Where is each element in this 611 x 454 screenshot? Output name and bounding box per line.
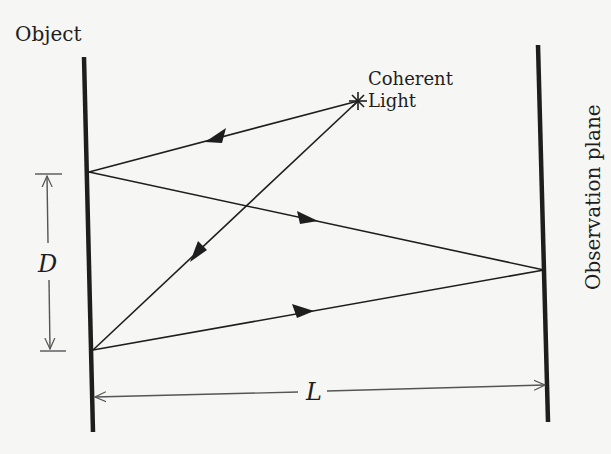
distance-label: L <box>306 380 322 404</box>
object-plane-line <box>84 57 93 432</box>
slit-separation-label: D <box>38 252 57 276</box>
ray-lower-to-screen <box>93 270 544 350</box>
coherent-light-line2: Light <box>368 90 453 112</box>
coherent-light-label: Coherent Light <box>368 68 453 112</box>
object-label: Object <box>15 24 81 44</box>
observation-plane-line <box>538 45 548 422</box>
observation-plane-label: Observation plane <box>583 104 603 290</box>
arrowhead-icon <box>292 304 314 318</box>
ray-source-to-lower <box>93 101 358 350</box>
light-rays <box>89 101 544 350</box>
coherent-light-line1: Coherent <box>368 68 453 90</box>
arrowhead-icon <box>190 241 207 262</box>
arrowhead-icon <box>297 211 318 224</box>
arrowhead-icon <box>205 128 226 143</box>
